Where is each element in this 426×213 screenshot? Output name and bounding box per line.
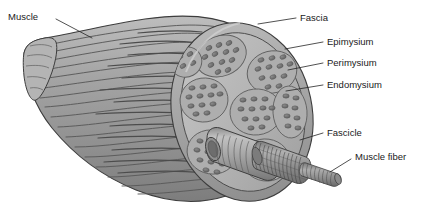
leader-epimysium xyxy=(285,42,323,49)
diagram-canvas: Muscle Fascia Epimysium Perimysium Endom… xyxy=(0,0,426,213)
label-fascicle: Fascicle xyxy=(327,127,362,138)
leader-fascia xyxy=(258,18,296,24)
label-muscle: Muscle xyxy=(8,11,38,22)
label-perimysium: Perimysium xyxy=(327,57,377,68)
label-muscle-fiber: Muscle fiber xyxy=(355,151,406,162)
muscle-structure-diagram: Muscle Fascia Epimysium Perimysium Endom… xyxy=(0,0,426,213)
leader-muscle-fiber xyxy=(330,159,351,172)
label-endomysium: Endomysium xyxy=(327,79,382,90)
label-fascia: Fascia xyxy=(300,12,329,23)
muscle-fiber-strand xyxy=(299,163,342,187)
label-epimysium: Epimysium xyxy=(327,36,374,47)
